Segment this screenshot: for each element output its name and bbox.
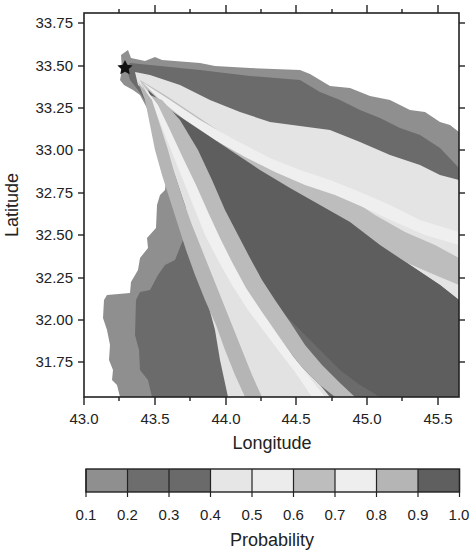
colorbar-bin-0.2-0.3	[128, 469, 170, 492]
y-tick-label: 33.50	[35, 57, 73, 74]
colorbar-tick-label: 0.5	[242, 506, 263, 523]
colorbar-tick-label: 0.1	[76, 506, 97, 523]
colorbar-bin-0.8-0.9	[377, 469, 419, 492]
colorbar-tick-label: 0.4	[200, 506, 221, 523]
x-tick-labels: 43.0 43.5 44.0 44.5 45.0 45.5	[69, 410, 452, 427]
colorbar-tick-label: 0.7	[325, 506, 346, 523]
y-tick-label: 33.75	[35, 14, 73, 31]
y-tick-label: 32.75	[35, 184, 73, 201]
colorbar-label: Probability	[230, 530, 314, 550]
y-tick-label: 32.00	[35, 311, 73, 328]
colorbar-bin-0.9-1.0	[418, 469, 460, 492]
colorbar-tick-label: 0.3	[159, 506, 180, 523]
y-tick-labels: 33.75 33.50 33.25 33.00 32.75 32.50 32.2…	[35, 14, 73, 370]
x-tick-label: 45.0	[352, 410, 381, 427]
x-tick-label: 44.5	[281, 410, 310, 427]
colorbar-bin-0.5-0.6	[252, 469, 294, 492]
y-tick-label: 31.75	[35, 353, 73, 370]
colorbar-tick-label: 0.2	[117, 506, 138, 523]
x-tick-label: 43.0	[69, 410, 98, 427]
x-axis-label: Longitude	[232, 433, 311, 453]
x-tick-label: 44.0	[211, 410, 240, 427]
colorbar-tick-label: 0.9	[408, 506, 429, 523]
colorbar-bin-0.4-0.5	[211, 469, 253, 492]
colorbar-bin-0.6-0.7	[294, 469, 336, 492]
colorbar-bin-0.3-0.4	[169, 469, 211, 492]
y-tick-label: 32.50	[35, 226, 73, 243]
probability-map-figure: 33.75 33.50 33.25 33.00 32.75 32.50 32.2…	[0, 0, 474, 554]
colorbar-tick-label: 0.8	[366, 506, 387, 523]
colorbar-bin-0.1-0.2	[86, 469, 128, 492]
colorbar-tick-label: 0.6	[283, 506, 304, 523]
x-tick-label: 43.5	[140, 410, 169, 427]
y-tick-label: 33.25	[35, 99, 73, 116]
y-tick-label: 33.00	[35, 141, 73, 158]
colorbar: 0.1 0.2 0.3 0.4 0.5 0.6 0.7 0.8 0.9 1.0 …	[76, 469, 470, 550]
x-tick-label: 45.5	[423, 410, 452, 427]
colorbar-tick-label: 1.0	[449, 506, 470, 523]
y-axis-label: Latitude	[2, 173, 22, 237]
y-tick-label: 32.25	[35, 269, 73, 286]
colorbar-bin-0.7-0.8	[335, 469, 377, 492]
